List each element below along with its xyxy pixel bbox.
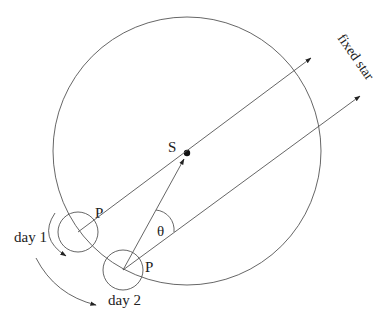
sidereal-day-diagram: S P P θ day 1 day 2 fixed star [0,0,384,324]
day1-rotation-arrow [49,213,66,256]
sun-label: S [168,139,176,155]
star-direction-line-day2 [123,96,360,270]
planet-label-day2: P [145,259,153,275]
star-direction-line-day1 [78,58,311,232]
day1-label: day 1 [14,229,47,245]
day2-label: day 2 [108,292,141,308]
angle-label: θ [157,223,164,239]
day-progression-arrow [36,258,96,305]
fixed-star-label: fixed star [335,31,378,83]
